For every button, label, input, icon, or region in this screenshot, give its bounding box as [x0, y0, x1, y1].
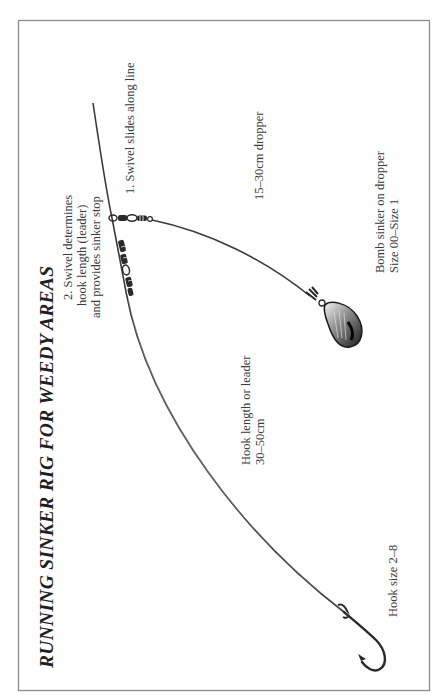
sinker-icon: [306, 287, 362, 347]
rig-diagram: RUNNING SINKER RIG FOR WEEDY AREAS 2. Sw…: [0, 0, 438, 700]
label-sinker: Bomb sinker on dropper Size 00–Size 1: [373, 150, 401, 273]
label-sinker-line2: Size 00–Size 1: [387, 199, 401, 273]
label-swivel-stop-line2: hook length (leader): [75, 205, 89, 306]
main-line-highlight: [129, 300, 346, 612]
label-hook-size: Hook size 2–8: [386, 545, 400, 617]
label-sinker-line1: Bomb sinker on dropper: [373, 150, 387, 273]
label-dropper: 15–30cm dropper: [252, 111, 266, 200]
label-swivel-stop-line3: and provides sinker stop: [89, 196, 103, 318]
figure-border: [19, 21, 430, 691]
label-swivel-stop: 2. Swivel determines hook length (leader…: [61, 195, 103, 318]
dropper-line: [152, 220, 310, 296]
hook-icon: [338, 604, 385, 670]
label-leader: Hook length or leader 30–50cm: [239, 355, 267, 465]
label-swivel-stop-line1: 2. Swivel determines: [61, 195, 75, 300]
label-swivel-slides: 1. Swivel slides along line: [123, 62, 137, 194]
running-swivel-icon: [109, 215, 152, 222]
figure-title: RUNNING SINKER RIG FOR WEEDY AREAS: [36, 266, 57, 669]
label-leader-line2: 30–50cm: [253, 418, 267, 465]
label-leader-line1: Hook length or leader: [239, 355, 253, 465]
